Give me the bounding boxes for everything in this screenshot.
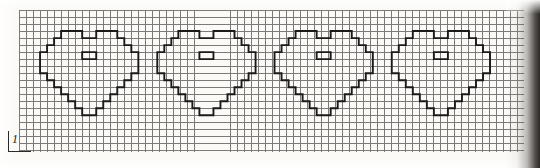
heart-motif-layer <box>0 0 540 168</box>
heart-outline <box>275 31 373 115</box>
heart-motif <box>157 31 255 115</box>
heart-outline <box>157 31 255 115</box>
chart-scan-canvas: 1 <box>0 0 540 168</box>
hearts-group <box>40 31 490 115</box>
one-square-scale-marker: 1 <box>8 131 38 157</box>
heart-inner-cross <box>82 52 96 59</box>
heart-motif <box>392 31 490 115</box>
heart-inner-cross <box>199 52 213 59</box>
heart-inner-cross <box>434 52 448 59</box>
heart-outline <box>40 31 138 115</box>
heart-outline <box>392 31 490 115</box>
heart-motif <box>40 31 138 115</box>
heart-inner-cross <box>317 52 331 59</box>
heart-motif <box>275 31 373 115</box>
scale-marker-label: 1 <box>12 132 18 147</box>
